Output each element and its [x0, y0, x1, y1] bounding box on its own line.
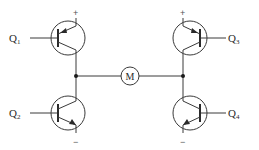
h-bridge-diagram: + Q1 − Q2 + Q3	[0, 0, 259, 150]
q1-collector	[58, 42, 76, 50]
q3-plus-terminal: +	[180, 8, 185, 18]
q1-plus-terminal: +	[73, 8, 78, 18]
q4-collector	[183, 101, 200, 109]
q4-label: Q4	[228, 107, 240, 121]
q2-collector	[58, 101, 76, 109]
motor-branch: M	[74, 67, 185, 85]
right-junction-dot	[181, 74, 185, 78]
transistor-q3: + Q3	[173, 8, 240, 76]
q3-collector	[183, 42, 200, 50]
transistor-q4: − Q4	[173, 76, 240, 147]
q2-label: Q2	[9, 107, 21, 121]
q1-label: Q1	[9, 32, 21, 46]
motor-label: M	[126, 71, 135, 82]
q3-label: Q3	[228, 32, 240, 46]
q4-minus-terminal: −	[180, 137, 185, 147]
transistor-q1: + Q1	[9, 8, 85, 76]
left-junction-dot	[74, 74, 78, 78]
q1-emitter-arrow	[60, 28, 67, 33]
q2-minus-terminal: −	[73, 137, 78, 147]
transistor-q2: − Q2	[9, 76, 85, 147]
q3-emitter-arrow	[191, 28, 198, 33]
